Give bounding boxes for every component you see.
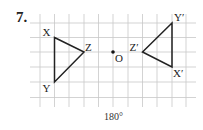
label-y: Y (43, 82, 51, 94)
label-x: X (43, 26, 51, 38)
label-x-prime: X′ (173, 67, 183, 79)
label-o: O (115, 52, 123, 64)
rotation-caption: 180° (104, 111, 123, 122)
label-z: Z (85, 41, 92, 53)
rotation-diagram: X Y Z O X′ Y′ Z′ (0, 0, 203, 130)
label-y-prime: Y′ (174, 11, 184, 23)
label-z-prime: Z′ (130, 41, 139, 53)
